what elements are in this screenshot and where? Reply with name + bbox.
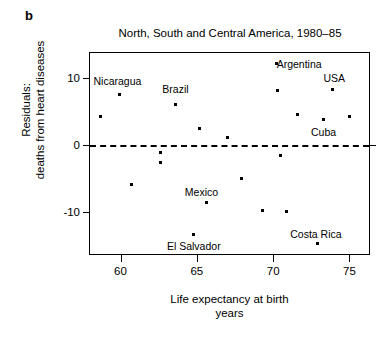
point-label-costa-rica: Costa Rica bbox=[290, 228, 341, 240]
data-point bbox=[198, 127, 201, 130]
y-axis-tick-right bbox=[369, 145, 376, 146]
x-axis-title: Life expectancy at birth years bbox=[89, 292, 370, 320]
plot-frame: 100-1060657075NicaraguaBrazilArgentinaUS… bbox=[89, 52, 370, 255]
point-label-el-salvador: El Salvador bbox=[167, 240, 221, 252]
y-axis-tick bbox=[83, 212, 90, 213]
data-point-usa bbox=[331, 88, 334, 91]
y-axis-tick-label: -10 bbox=[63, 206, 80, 218]
x-axis-tick-label: 60 bbox=[114, 265, 127, 277]
point-label-argentina: Argentina bbox=[277, 58, 322, 70]
data-point bbox=[285, 210, 288, 213]
x-axis-title-line2: years bbox=[89, 306, 370, 320]
data-point-costa-rica bbox=[316, 242, 319, 245]
y-axis-tick bbox=[83, 78, 90, 79]
y-axis-title-line1: Residuals: bbox=[19, 15, 33, 205]
figure-panel: b North, South and Central America, 1980… bbox=[0, 0, 391, 338]
plot-title: North, South and Central America, 1980–8… bbox=[89, 27, 371, 39]
x-axis-tick bbox=[349, 254, 350, 262]
x-axis-tick bbox=[121, 254, 122, 262]
y-axis-title-line2: deaths from heart diseases bbox=[33, 15, 47, 205]
data-point bbox=[226, 136, 229, 139]
x-axis-tick bbox=[197, 254, 198, 262]
data-point bbox=[348, 115, 351, 118]
zero-reference-line bbox=[90, 145, 369, 147]
point-label-usa: USA bbox=[323, 72, 345, 84]
x-axis-tick bbox=[273, 254, 274, 262]
data-point bbox=[279, 154, 282, 157]
data-point-cuba bbox=[322, 118, 325, 121]
y-axis-tick-label: 10 bbox=[67, 72, 80, 84]
data-point-mexico bbox=[205, 201, 208, 204]
x-axis-tick-label: 75 bbox=[343, 265, 356, 277]
data-point bbox=[240, 177, 243, 180]
data-point bbox=[276, 89, 279, 92]
y-axis-tick bbox=[83, 145, 90, 146]
data-point-brazil bbox=[174, 103, 177, 106]
data-point bbox=[261, 209, 264, 212]
x-axis-tick-label: 70 bbox=[267, 265, 280, 277]
data-point-el-salvador bbox=[192, 233, 195, 236]
x-axis-title-line1: Life expectancy at birth bbox=[89, 292, 370, 306]
data-point bbox=[130, 183, 133, 186]
data-point bbox=[99, 115, 102, 118]
point-label-brazil: Brazil bbox=[162, 83, 188, 95]
point-label-nicaragua: Nicaragua bbox=[94, 75, 142, 87]
data-point bbox=[159, 161, 162, 164]
data-point bbox=[296, 113, 299, 116]
point-label-mexico: Mexico bbox=[185, 186, 218, 198]
data-point bbox=[159, 151, 162, 154]
y-axis-title: Residuals: deaths from heart diseases bbox=[19, 15, 47, 205]
y-axis-tick-label: 0 bbox=[74, 139, 80, 151]
data-point-nicaragua bbox=[118, 93, 121, 96]
plot-area: 100-1060657075NicaraguaBrazilArgentinaUS… bbox=[90, 53, 369, 254]
x-axis-tick-label: 65 bbox=[190, 265, 203, 277]
point-label-cuba: Cuba bbox=[311, 126, 336, 138]
